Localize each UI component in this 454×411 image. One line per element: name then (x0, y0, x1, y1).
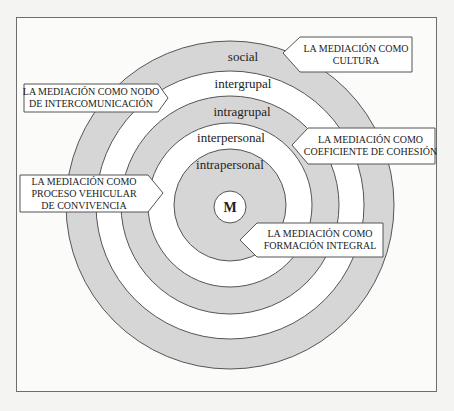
callout-line: DE INTERCOMUNICACIÓN (29, 98, 153, 110)
callout-cohesion: LA MEDIACIÓN COMO COEFICIENTE DE COHESIÓ… (306, 128, 435, 164)
callout-formacion: LA MEDIACIÓN COMO FORMACIÓN INTEGRAL (257, 223, 383, 257)
ring-label-social: social (228, 49, 258, 65)
callout-nodo: LA MEDIACIÓN COMO NODO DE INTERCOMUNICAC… (24, 84, 158, 112)
ring-label-intergrupal: intergrupal (215, 76, 272, 92)
callout-convivencia: LA MEDIACIÓN COMO PROCESO VEHICULAR DE C… (20, 175, 148, 212)
ring-label-intrapersonal: intrapersonal (196, 157, 264, 173)
callout-line: FORMACIÓN INTEGRAL (264, 240, 377, 252)
callout-line: LA MEDIACIÓN COMO (268, 228, 373, 240)
callout-cultura: LA MEDIACIÓN COMO CULTURA (300, 37, 412, 72)
center-label: M (223, 200, 236, 216)
ring-label-interpersonal: interpersonal (197, 130, 265, 146)
callout-line: COEFICIENTE DE COHESIÓN (304, 146, 437, 158)
callout-line: LA MEDIACIÓN COMO NODO (23, 86, 159, 98)
callout-line: CULTURA (333, 55, 379, 67)
callout-line: LA MEDIACIÓN COMO (304, 43, 409, 55)
ring-label-intragrupal: intragrupal (213, 104, 270, 120)
callout-line: PROCESO VEHICULAR (31, 188, 136, 200)
callout-line: DE CONVIVENCIA (41, 200, 126, 212)
callout-line: LA MEDIACIÓN COMO (318, 134, 423, 146)
callout-line: LA MEDIACIÓN COMO (32, 176, 137, 188)
